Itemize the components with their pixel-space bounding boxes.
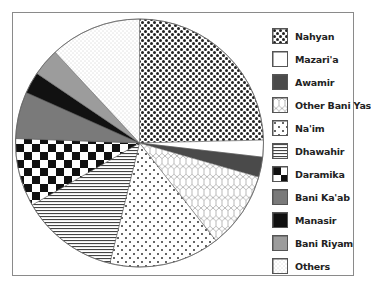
legend-label: Dhawahir — [295, 146, 344, 157]
legend-label: Bani Ka'ab — [295, 192, 350, 203]
legend-item: Other Bani Yas — [272, 97, 371, 113]
legend-item: Nahyan — [272, 28, 334, 44]
legend-label: Na'im — [295, 123, 324, 134]
legend-label: Others — [295, 261, 330, 272]
legend-item: Bani Ka'ab — [272, 189, 350, 205]
legend-item: Manasir — [272, 212, 336, 228]
legend-swatch — [272, 258, 288, 274]
legend-swatch — [272, 120, 288, 136]
legend-swatch — [272, 28, 288, 44]
legend-label: Manasir — [295, 215, 336, 226]
pie-slices — [16, 19, 264, 267]
legend-label: Bani Riyam — [295, 238, 353, 249]
legend-label: Nahyan — [295, 31, 334, 42]
legend-item: Bani Riyam — [272, 235, 353, 251]
legend-item: Others — [272, 258, 330, 274]
legend-item: Dhawahir — [272, 143, 344, 159]
legend-swatch — [272, 189, 288, 205]
legend-label: Awamir — [295, 77, 334, 88]
legend-item: Daramika — [272, 166, 345, 182]
legend-swatch — [272, 51, 288, 67]
legend-swatch — [272, 166, 288, 182]
legend-swatch — [272, 143, 288, 159]
legend-swatch — [272, 74, 288, 90]
legend-item: Awamir — [272, 74, 334, 90]
legend-swatch — [272, 235, 288, 251]
legend-swatch — [272, 97, 288, 113]
pie-slice-nahyan — [140, 19, 264, 143]
legend-item: Mazari'a — [272, 51, 338, 67]
legend-label: Mazari'a — [295, 54, 338, 65]
legend-item: Na'im — [272, 120, 324, 136]
legend-swatch — [272, 212, 288, 228]
legend-label: Other Bani Yas — [295, 100, 371, 111]
legend-label: Daramika — [295, 169, 345, 180]
